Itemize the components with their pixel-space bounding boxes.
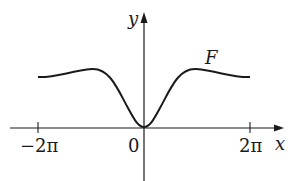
tick-label-pos-2pi: 2π <box>239 135 262 156</box>
tick-label-zero: 0 <box>128 135 139 156</box>
y-axis-label: y <box>127 8 139 29</box>
y-axis-arrow-icon <box>141 12 148 23</box>
chart-svg: y x F −2π 0 2π <box>0 0 302 181</box>
tick-label-neg-2pi: −2π <box>20 135 59 156</box>
curve-label-F: F <box>204 47 219 68</box>
x-axis-arrow-icon <box>274 125 284 132</box>
x-axis-label: x <box>275 133 285 154</box>
